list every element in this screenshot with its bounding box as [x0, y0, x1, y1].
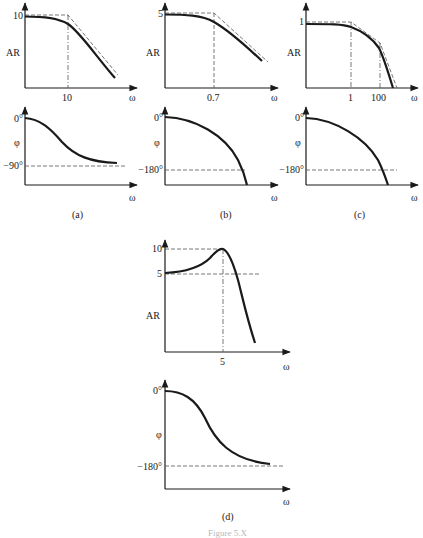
panel-a-phase-ylabel: φ	[14, 138, 20, 148]
panel-d-phase-asymptote: −180°	[133, 462, 162, 472]
phase-curve	[306, 118, 388, 185]
panel-a-phase-xlabel: ω	[129, 193, 136, 203]
panel-d-phase-xlabel: ω	[283, 497, 290, 507]
panel-b-phase-ytop: 0°	[142, 113, 163, 123]
panel-b-ar-plot	[165, 3, 278, 88]
panel-d-ar-plot	[165, 240, 290, 352]
panel-a-phase-ytop: 0°	[2, 114, 23, 124]
panel-c-ar-ylabel: AR	[287, 48, 301, 58]
panel-b-phase-asymptote: −180°	[134, 165, 163, 175]
panel-c-ar-xtick-1: 1	[348, 93, 353, 103]
panel-a-ar-ylabel: AR	[6, 48, 20, 58]
panel-b-phase-plot	[165, 107, 278, 185]
panel-c-ar-ytick: 1	[286, 17, 304, 27]
ar-curve	[165, 249, 255, 343]
panel-d-phase-plot	[165, 380, 290, 489]
panel-a-ar-xlabel: ω	[129, 93, 136, 103]
panel-c-ar-xtick-100: 100	[371, 93, 386, 103]
panel-b-ar-xtick: 0.7	[207, 93, 220, 103]
phase-curve	[165, 117, 247, 185]
panel-c-phase-ylabel: φ	[295, 138, 301, 148]
panel-c-phase-asymptote: −180°	[275, 165, 304, 175]
panel-b-phase-ylabel: φ	[154, 138, 160, 148]
asymptote-dashed	[165, 13, 268, 62]
panel-d-ar-ylabel: AR	[146, 311, 160, 321]
panel-a-ar-plot	[25, 3, 137, 88]
phase-curve	[165, 391, 270, 464]
panel-a-caption: (a)	[72, 210, 83, 220]
panel-d-ar-xlabel: ω	[283, 362, 290, 372]
panel-c-phase-xlabel: ω	[411, 193, 418, 203]
panel-b-ar-ytick: 5	[145, 9, 163, 19]
figure-caption-clipped: Figure 5.X	[208, 529, 247, 538]
ar-curve	[25, 17, 115, 79]
panel-d-ar-xtick: 5	[220, 357, 225, 367]
panel-c-phase-plot	[306, 107, 418, 185]
panel-a-ar-ytick: 10	[5, 11, 23, 21]
panel-d-phase-ylabel: φ	[156, 430, 162, 440]
asymptote-dashed	[306, 22, 397, 88]
panel-c-ar-plot	[306, 3, 418, 88]
panel-a-phase-plot	[25, 107, 137, 185]
panel-c-ar-xlabel: ω	[411, 93, 418, 103]
panel-d-phase-ytop: 0°	[141, 386, 162, 396]
panel-b-caption: (b)	[220, 210, 232, 220]
panel-d-ar-ytick-10: 10	[141, 244, 162, 254]
panel-b-phase-xlabel: ω	[271, 193, 278, 203]
phase-curve	[25, 118, 117, 163]
panel-a-ar-xtick: 10	[62, 93, 72, 103]
panel-a-phase-asymptote: −90°	[0, 161, 23, 171]
panel-c-phase-ytop: 0°	[283, 113, 304, 123]
panel-c-caption: (c)	[354, 210, 365, 220]
ar-curve	[165, 15, 262, 62]
panel-d-ar-ytick-5: 5	[141, 269, 162, 279]
panel-d-caption: (d)	[222, 512, 234, 522]
panel-b-ar-xlabel: ω	[271, 93, 278, 103]
panel-b-ar-ylabel: AR	[146, 48, 160, 58]
